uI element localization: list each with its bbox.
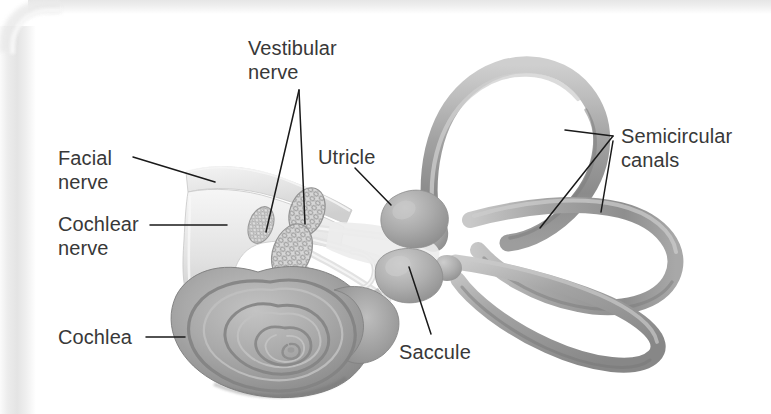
label-cochlear-nerve: Cochlear nerve: [58, 212, 139, 260]
label-saccule: Saccule: [399, 341, 471, 364]
label-utricle: Utricle: [318, 146, 375, 169]
label-facial-nerve: Facial nerve: [58, 146, 112, 194]
inner-ear-illustration: [0, 0, 771, 414]
label-semicircular-canals: Semicircular canals: [621, 124, 732, 172]
label-cochlea: Cochlea: [58, 326, 132, 349]
saccule: [375, 248, 443, 302]
leader-utricle: [355, 168, 391, 205]
utricle: [381, 190, 449, 248]
label-vestibular-nerve: Vestibular nerve: [248, 36, 337, 84]
semicircular-canals-group: [412, 65, 676, 368]
figure-page: Vestibular nerve Utricle Semicircular ca…: [0, 0, 771, 414]
